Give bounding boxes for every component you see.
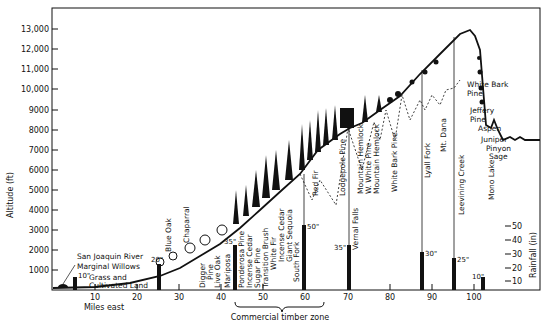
- svg-text:South Fork: South Fork: [292, 241, 301, 282]
- svg-text:90: 90: [427, 293, 437, 302]
- svg-text:Chaparral: Chaparral: [182, 206, 191, 243]
- rainfall-bar: [420, 252, 424, 290]
- rainfall-axis-tick-labels: 10 20 30 40 50: [512, 222, 522, 286]
- timber-zone-label: Commercial timber zone: [231, 313, 330, 322]
- svg-text:Pine: Pine: [470, 115, 486, 124]
- rainfall-bar: [73, 277, 77, 290]
- svg-text:9000: 9000: [29, 106, 49, 115]
- svg-text:20: 20: [512, 264, 522, 273]
- svg-text:50: 50: [512, 222, 522, 231]
- vertical-vegetation-labels: Blue Oak Chaparral Digger Pine Live Oak …: [164, 118, 496, 289]
- svg-text:5000: 5000: [29, 186, 49, 195]
- svg-text:35": 35": [334, 244, 346, 252]
- x-axis-tick-labels: 10 20 30 40 50 60 70 80 90 100: [90, 293, 482, 302]
- svg-text:White Bark Pine: White Bark Pine: [390, 132, 399, 192]
- svg-text:Mt. Dana: Mt. Dana: [439, 118, 448, 152]
- svg-text:Lodgepole Pine: Lodgepole Pine: [338, 139, 347, 196]
- svg-text:20: 20: [132, 293, 142, 302]
- rainfall-bar: [347, 245, 351, 290]
- x-axis-label: Miles east: [84, 303, 124, 312]
- svg-text:8000: 8000: [29, 126, 49, 135]
- rainfall-bar: [157, 264, 161, 290]
- svg-text:25": 25": [457, 256, 469, 264]
- east-vegetation-labels: White Bark Pine Jeffery Pine Aspen Junip…: [467, 80, 511, 161]
- svg-text:Lyall Fork: Lyall Fork: [423, 142, 432, 178]
- rainfall-bar: [302, 225, 306, 290]
- svg-text:White Bark: White Bark: [467, 80, 509, 89]
- svg-text:Red Fir: Red Fir: [311, 170, 320, 196]
- svg-text:Leevining Creek: Leevining Creek: [457, 154, 466, 215]
- svg-text:Pine: Pine: [467, 89, 483, 98]
- svg-text:4000: 4000: [29, 206, 49, 215]
- svg-text:Mono Lake: Mono Lake: [487, 159, 496, 200]
- rainfall-bar: [452, 258, 456, 290]
- west-vegetation-labels: San Joaquin River Marginal Willows Grass…: [77, 252, 148, 290]
- svg-text:10,000: 10,000: [21, 85, 49, 94]
- svg-text:12,000: 12,000: [21, 45, 49, 54]
- svg-text:Live Oak: Live Oak: [213, 255, 222, 288]
- rainfall-axis-label: Rainfall (in): [529, 232, 538, 278]
- y-axis-tick-labels: 1000 2000 3000 4000 5000 6000 7000 8000 …: [21, 25, 49, 275]
- svg-text:10: 10: [90, 293, 100, 302]
- svg-text:Blue Oak: Blue Oak: [164, 218, 173, 252]
- svg-text:Cultivated Land: Cultivated Land: [89, 281, 148, 290]
- svg-text:60: 60: [300, 293, 310, 302]
- x-axis-ticks: [95, 284, 474, 290]
- svg-text:40: 40: [512, 236, 522, 245]
- svg-text:Marginal Willows: Marginal Willows: [77, 262, 140, 271]
- timber-zone-brace: [235, 302, 324, 312]
- svg-text:Juniper: Juniper: [480, 135, 508, 144]
- svg-text:80: 80: [385, 293, 395, 302]
- svg-text:Jeffery: Jeffery: [469, 106, 495, 115]
- svg-text:40: 40: [216, 293, 226, 302]
- svg-text:Mountain Hemlock: Mountain Hemlock: [372, 123, 381, 194]
- svg-text:1000: 1000: [29, 266, 49, 275]
- svg-text:3000: 3000: [29, 226, 49, 235]
- willow-icon: [58, 284, 68, 287]
- svg-text:50: 50: [258, 293, 268, 302]
- svg-text:6000: 6000: [29, 166, 49, 175]
- svg-text:13,000: 13,000: [21, 25, 49, 34]
- y-axis-label: Altitude (ft): [6, 172, 15, 218]
- svg-text:11,000: 11,000: [21, 65, 49, 74]
- svg-text:2000: 2000: [29, 246, 49, 255]
- svg-text:10: 10: [512, 277, 522, 286]
- svg-text:30: 30: [174, 293, 184, 302]
- svg-text:San Joaquin River: San Joaquin River: [77, 252, 144, 261]
- svg-text:Mariposa: Mariposa: [223, 254, 232, 288]
- svg-text:70: 70: [343, 293, 353, 302]
- svg-text:50": 50": [307, 223, 319, 231]
- svg-text:Vernal Falls: Vernal Falls: [351, 208, 360, 250]
- svg-text:7000: 7000: [29, 146, 49, 155]
- svg-text:20": 20": [151, 256, 163, 264]
- svg-text:100: 100: [466, 293, 481, 302]
- svg-text:10": 10": [472, 273, 484, 281]
- svg-text:30: 30: [512, 250, 522, 259]
- svg-text:30": 30": [425, 250, 437, 258]
- svg-text:Aspen: Aspen: [478, 124, 501, 133]
- rainfall-axis-ticks: [505, 226, 511, 281]
- y-axis-ticks: [52, 29, 58, 270]
- altitude-profile-diagram: 1000 2000 3000 4000 5000 6000 7000 8000 …: [0, 0, 544, 325]
- svg-text:Sage: Sage: [489, 152, 508, 161]
- svg-text:35": 35": [224, 238, 236, 246]
